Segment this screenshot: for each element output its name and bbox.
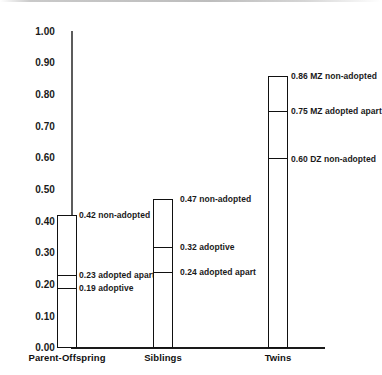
value-callout: 0.42 non-adopted: [79, 211, 150, 220]
y-tick-label: 0.60: [9, 153, 55, 163]
bar-divider-siblings-0.32: [153, 247, 173, 248]
bar-twins: [268, 76, 288, 348]
value-callout: 0.60 DZ non-adopted: [291, 155, 376, 164]
value-callout: 0.19 adoptive: [79, 284, 134, 293]
value-callout: 0.32 adoptive: [180, 243, 235, 252]
bar-divider-twins-0.60: [268, 158, 288, 159]
value-callout: 0.24 adopted apart: [180, 268, 256, 277]
y-tick-label: 0.80: [9, 90, 55, 100]
y-tick-label: 0.90: [9, 58, 55, 68]
bar-divider-twins-0.75: [268, 111, 288, 112]
x-category-label-siblings: Siblings: [123, 352, 203, 363]
y-tick-label: 0.70: [9, 122, 55, 132]
x-category-label-twins: Twins: [238, 352, 318, 363]
y-tick-label: 1.00: [9, 27, 55, 37]
y-tick-label: 0.30: [9, 248, 55, 258]
value-callout: 0.75 MZ adopted apart: [291, 107, 382, 116]
bar-divider-siblings-0.24: [153, 272, 173, 273]
y-tick-label: 0.10: [9, 312, 55, 322]
x-category-label-parent-offspring: Parent-Offspring: [17, 352, 117, 363]
bar-parent-offspring: [57, 215, 77, 348]
y-tick-label: 0.50: [9, 185, 55, 195]
value-callout: 0.86 MZ non-adopted: [291, 72, 377, 81]
bar-divider-parent-offspring-0.19: [57, 288, 77, 289]
y-tick-label: 0.20: [9, 280, 55, 290]
bar-divider-parent-offspring-0.23: [57, 275, 77, 276]
y-tick-label: 0.40: [9, 217, 55, 227]
bar-siblings: [153, 199, 173, 348]
value-callout: 0.23 adopted apart: [79, 271, 155, 280]
value-callout: 0.47 non-adopted: [180, 195, 251, 204]
